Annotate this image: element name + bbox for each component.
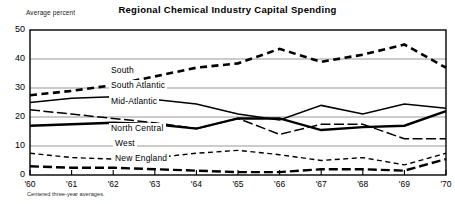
x-tick-label: '61 (59, 179, 85, 189)
y-tick-label: 50 (5, 24, 25, 34)
y-tick-label: 20 (5, 111, 25, 121)
series-label-south: South (109, 65, 136, 75)
series-label-new-england: New England (113, 153, 169, 163)
x-tick-label: '62 (100, 179, 126, 189)
series-line-west (30, 150, 446, 165)
axis-frame (30, 30, 446, 175)
series-label-north-central: North Central (109, 123, 166, 133)
x-tick-label: '65 (225, 179, 251, 189)
series-label-south-atlantic: South Atlantic (109, 80, 167, 90)
x-tick-label: '64 (183, 179, 209, 189)
chart-figure: Regional Chemical Industry Capital Spend… (0, 0, 455, 204)
y-tick-label: 10 (5, 140, 25, 150)
plot-area (0, 0, 455, 204)
y-tick-label: 30 (5, 82, 25, 92)
chart-footnote: Centered three-year averages. (27, 191, 105, 197)
x-tick-label: '67 (308, 179, 334, 189)
x-tick-label: '69 (391, 179, 417, 189)
x-tick-label: '70 (433, 179, 455, 189)
series-label-west: West (113, 138, 137, 148)
gridlines (30, 59, 446, 146)
y-tick-label: 40 (5, 53, 25, 63)
series-lines (30, 45, 446, 173)
y-axis-label: Average percent (26, 9, 75, 16)
x-tick-label: '63 (142, 179, 168, 189)
series-label-mid-atlantic: Mid-Atlantic (109, 96, 159, 106)
x-tick-label: '68 (350, 179, 376, 189)
y-tick-label: 0 (5, 169, 25, 179)
x-tick-label: '60 (17, 179, 43, 189)
x-tick-label: '66 (267, 179, 293, 189)
